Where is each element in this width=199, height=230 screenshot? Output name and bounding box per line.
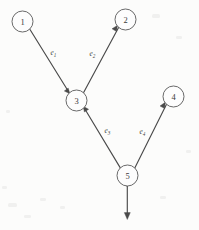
edge-e4: e4 [135,102,167,168]
edge-e5-sink [124,186,130,219]
graph-canvas: e1 e2 e3 e4 [0,0,199,230]
graph-diagram: e1 e2 e3 e4 [0,0,199,230]
node-1-label: 1 [20,17,24,27]
node-5[interactable]: 5 [117,165,138,186]
node-2-label: 2 [123,15,127,25]
edge-e3-line [84,108,120,168]
edge-e2-label: e2 [90,50,96,59]
edge-e2-line [84,28,119,93]
edge-group: e1 e2 e3 e4 [30,25,166,219]
node-2[interactable]: 2 [115,9,136,30]
edge-e1: e1 [30,30,70,94]
node-5-label: 5 [125,171,129,181]
node-1[interactable]: 1 [12,11,33,32]
edge-e3: e3 [83,106,120,168]
edge-e1-label: e1 [51,49,57,58]
edge-e2: e2 [84,25,119,92]
edge-e4-line [135,105,167,169]
node-4[interactable]: 4 [163,86,184,107]
edge-e1-line [30,30,69,92]
edge-e3-label: e3 [105,127,111,136]
node-group: 1 2 3 4 5 [12,9,184,186]
node-3[interactable]: 3 [66,90,87,111]
edge-e2-arrowhead [112,25,117,31]
edge-e5-arrowhead [124,213,130,220]
edge-e4-arrowhead [160,102,165,108]
edge-e4-label: e4 [140,128,146,137]
node-3-label: 3 [74,96,78,106]
